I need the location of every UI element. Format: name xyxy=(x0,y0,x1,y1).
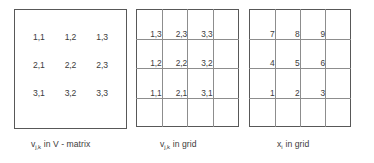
figure-canvas: 1,1 1,2 1,3 2,1 2,2 2,3 3,1 3,2 3,3 1,3 … xyxy=(0,0,374,163)
node-label: 4 xyxy=(270,59,276,68)
node-label: 2,3 xyxy=(176,29,188,38)
node-label: 3,1 xyxy=(201,88,213,97)
caption-v-grid: vj,kin grid xyxy=(160,140,197,149)
node-label: 9 xyxy=(320,29,326,38)
node-labels: 1,3 2,3 3,3 1,2 2,2 3,2 1,1 2,1 3,1 xyxy=(136,9,239,127)
matrix-cell: 2,1 xyxy=(23,51,55,79)
panel-v-grid: 1,3 2,3 3,3 1,2 2,2 3,2 1,1 2,1 3,1 xyxy=(136,9,239,127)
caption-subscript: j,k xyxy=(164,144,169,150)
matrix-cell: 3,1 xyxy=(23,79,55,107)
node-labels: 7 8 9 4 5 6 1 2 3 xyxy=(249,9,351,127)
caption-rest: in V - matrix xyxy=(44,139,91,149)
caption-rest: in grid xyxy=(286,139,310,149)
caption-x-grid: xiin grid xyxy=(277,140,309,149)
matrix-cell: 1,2 xyxy=(55,23,87,51)
caption-rest: in grid xyxy=(173,139,197,149)
matrix-cell: 3,3 xyxy=(86,79,118,107)
node-label: 7 xyxy=(270,29,276,38)
node-label: 8 xyxy=(295,29,301,38)
node-label: 1,1 xyxy=(150,88,162,97)
node-label: 1,3 xyxy=(150,29,162,38)
caption-subscript: i xyxy=(281,144,282,150)
matrix-cell: 1,3 xyxy=(86,23,118,51)
node-label: 3,2 xyxy=(201,59,213,68)
matrix-cell: 1,1 xyxy=(23,23,55,51)
matrix-cell: 2,2 xyxy=(55,51,87,79)
panel-x-grid: 7 8 9 4 5 6 1 2 3 xyxy=(249,9,351,127)
matrix-cell: 3,2 xyxy=(55,79,87,107)
node-label: 5 xyxy=(295,59,301,68)
node-label: 2,2 xyxy=(176,59,188,68)
node-label: 2 xyxy=(295,88,301,97)
matrix-cell: 2,3 xyxy=(86,51,118,79)
node-label: 6 xyxy=(320,59,326,68)
panel-v-matrix: 1,1 1,2 1,3 2,1 2,2 2,3 3,1 3,2 3,3 xyxy=(14,9,127,129)
node-label: 1,2 xyxy=(150,59,162,68)
node-label: 3,3 xyxy=(201,29,213,38)
node-label: 2,1 xyxy=(176,88,188,97)
caption-v-matrix: vj,kin V - matrix xyxy=(31,140,90,149)
caption-subscript: j,k xyxy=(35,144,40,150)
node-label: 1 xyxy=(270,88,276,97)
node-label: 3 xyxy=(320,88,326,97)
matrix-cell-grid: 1,1 1,2 1,3 2,1 2,2 2,3 3,1 3,2 3,3 xyxy=(14,9,127,129)
